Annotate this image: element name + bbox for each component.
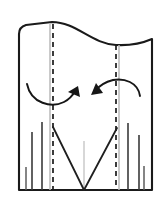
diagram-canvas [0, 0, 167, 202]
garment-body-outline [19, 22, 152, 190]
pattern-diagram-figure [0, 0, 167, 202]
